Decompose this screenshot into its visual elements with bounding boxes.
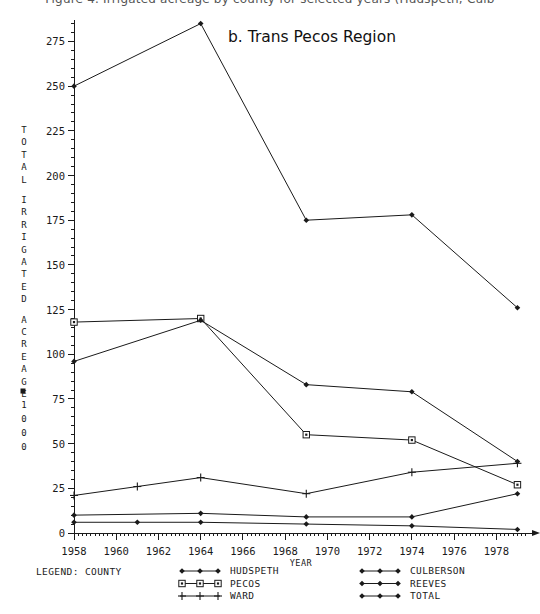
series-marker: [409, 389, 415, 395]
y-tick-label: 175: [46, 214, 65, 226]
x-axis-title: YEAR: [290, 558, 313, 568]
y-tick-label: 150: [46, 259, 65, 271]
legend-item-pecos[interactable]: PECOS: [179, 578, 261, 589]
x-axis-arrow-icon: [532, 530, 540, 536]
series-culberson: [71, 491, 520, 520]
series-marker: [303, 217, 309, 223]
legend-item-hudspeth[interactable]: HUDSPETH: [179, 565, 279, 576]
x-tick-label: 1960: [104, 545, 129, 557]
legend-item-culberson[interactable]: CULBERSON: [359, 565, 465, 576]
y-axis-units-char: 1: [21, 400, 26, 410]
legend-marker: [196, 592, 204, 600]
series-marker: [198, 511, 204, 517]
legend-marker: [395, 593, 401, 599]
legend-label: PECOS: [230, 578, 261, 589]
y-axis-title-char: E: [21, 352, 26, 362]
y-axis-title-char: A: [21, 364, 27, 374]
legend-marker: [197, 580, 203, 586]
chart-axes: [68, 20, 540, 540]
series-marker: [409, 514, 415, 520]
legend-marker: [395, 581, 401, 587]
x-tick-label: 1964: [188, 545, 213, 557]
series-marker: [408, 468, 416, 476]
y-axis-title-char: A: [21, 257, 27, 267]
y-tick-label: 75: [52, 393, 65, 405]
series-marker: [71, 319, 77, 325]
legend-label: CULBERSON: [410, 565, 465, 576]
legend-label: REEVES: [410, 578, 447, 589]
series-reeves: [71, 317, 520, 464]
legend-marker: [377, 568, 383, 574]
series-marker: [514, 482, 520, 488]
legend-marker: [179, 568, 185, 574]
x-tick-label: 1962: [146, 545, 171, 557]
y-axis-title-char: A: [21, 315, 27, 325]
series-marker: [515, 491, 521, 497]
y-axis-title-char: T: [21, 269, 27, 279]
series-line: [74, 319, 517, 485]
x-tick-label: 1978: [484, 545, 509, 557]
series-marker: [515, 527, 521, 533]
chart-title-group: b. Trans Pecos Region: [228, 28, 396, 46]
legend-marker: [359, 593, 365, 599]
series-marker: [71, 83, 77, 89]
legend-item-reeves[interactable]: REEVES: [359, 578, 447, 589]
legend-label: TOTAL: [410, 590, 441, 601]
x-tick-label: 1974: [399, 545, 424, 557]
series-total: [71, 21, 520, 311]
y-tick-label: 275: [46, 35, 65, 47]
legend-heading: LEGEND: COUNTY: [36, 566, 122, 577]
chart-series-group: [70, 21, 521, 532]
y-axis-title-char: I: [21, 232, 26, 242]
series-marker: [303, 431, 309, 437]
y-tick-label: 0: [59, 527, 65, 539]
y-axis-title-char: I: [21, 195, 26, 205]
y-tick-label: 25: [52, 482, 65, 494]
legend-marker: [215, 568, 221, 574]
y-tick-label: 125: [46, 304, 65, 316]
y-axis-title-char: T: [21, 150, 27, 160]
y-axis-title-char: D: [21, 294, 26, 304]
y-axis-units-char: 0: [21, 428, 26, 438]
series-marker: [133, 483, 141, 491]
series-hudspeth: [71, 519, 520, 532]
legend-marker: [197, 568, 203, 574]
legend-label: HUDSPETH: [230, 565, 279, 576]
legend-item-total[interactable]: TOTAL: [359, 590, 440, 601]
x-tick-label: 1966: [230, 545, 255, 557]
chart-tick-labels: 0255075100125150175200225250275195819601…: [46, 35, 509, 568]
series-pecos: [71, 315, 521, 488]
legend-marker: [179, 580, 185, 586]
x-tick-label: 1976: [441, 545, 466, 557]
y-tick-label: 225: [46, 125, 65, 137]
y-axis-title-char: R: [21, 339, 27, 349]
y-axis-title: TOTALIRRIGATEDACREAGE1000: [21, 125, 28, 452]
x-tick-label: 1968: [273, 545, 298, 557]
line-chart: 0255075100125150175200225250275195819601…: [0, 0, 540, 614]
x-tick-label: 1958: [61, 545, 86, 557]
y-axis-title-char: O: [21, 137, 26, 147]
series-marker: [302, 490, 310, 498]
legend-marker: [377, 593, 383, 599]
y-axis-title-char: R: [21, 220, 27, 230]
y-axis-title-char: A: [21, 162, 27, 172]
chart-title: b. Trans Pecos Region: [228, 28, 396, 46]
x-tick-label: 1972: [357, 545, 382, 557]
series-line: [74, 522, 517, 529]
figure-panel: Figure 4. Irrigated acreage by county fo…: [0, 0, 540, 614]
series-line: [74, 24, 517, 308]
series-marker: [198, 21, 204, 27]
y-axis-title-char: R: [21, 207, 27, 217]
y-tick-label: 200: [46, 170, 65, 182]
legend-marker: [214, 592, 222, 600]
legend-item-ward[interactable]: WARD: [178, 590, 254, 601]
legend-marker: [395, 568, 401, 574]
y-axis-title-char: T: [21, 125, 27, 135]
series-marker: [303, 521, 309, 527]
legend-marker: [359, 568, 365, 574]
legend-marker: [359, 581, 365, 587]
y-tick-label: 250: [46, 80, 65, 92]
y-axis-units-char: 0: [21, 414, 26, 424]
legend-marker: [377, 581, 383, 587]
chart-legend: LEGEND: COUNTYHUDSPETHPECOSWARDCULBERSON…: [36, 565, 465, 601]
